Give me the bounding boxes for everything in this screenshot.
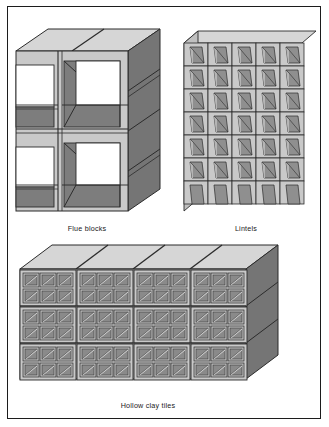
lintels-top-face [184,31,316,43]
panel-flue-blocks [8,21,170,221]
clay-tile-block [20,270,76,306]
lintel-unit [184,112,208,135]
lintel-unit [280,181,304,204]
caption-flue-blocks: Flue blocks [32,224,142,233]
lintel-unit [232,43,256,66]
lintel-unit [208,181,232,204]
lintel-unit [184,43,208,66]
lintel-unit [232,89,256,112]
lintel-unit [232,135,256,158]
caption-hollow-clay-tiles: Hollow clay tiles [68,401,228,410]
lintel-unit [232,112,256,135]
clay-tile-block [191,270,247,306]
clay-tile-block [20,344,76,380]
clay-tile-block [134,307,190,343]
lintel-unit [280,43,304,66]
flue-block-unit [16,65,54,127]
lintel-unit [256,89,280,112]
clay-tile-block [77,270,133,306]
lintel-unit [256,158,280,181]
lintel-unit [208,135,232,158]
lintel-unit [184,89,208,112]
lintel-unit [232,158,256,181]
panel-hollow-clay-tiles [12,239,318,399]
flue-block-unit [64,61,120,127]
lintel-unit [208,66,232,89]
lintel-unit [184,181,208,204]
lintel-unit [232,66,256,89]
clay-tile-block [191,307,247,343]
caption-lintels: Lintels [198,224,294,233]
lintel-unit [232,181,256,204]
lintel-unit [256,66,280,89]
clay-tile-block [134,270,190,306]
flue-blocks-illustration [8,21,170,221]
lintels-grid [184,43,304,204]
lintel-unit [184,66,208,89]
lintel-unit [280,158,304,181]
clay-tile-block [77,307,133,343]
lintel-unit [184,158,208,181]
hollow-clay-tiles-illustration [12,239,318,399]
lintel-unit [280,135,304,158]
lintel-unit [256,135,280,158]
figure-page: Flue blocks [0,0,329,427]
clay-tile-block [20,307,76,343]
figure-frame: Flue blocks [7,6,321,419]
flue-block-unit [16,147,54,207]
clay-tile-block [134,344,190,380]
clay-tile-block [77,344,133,380]
lintel-unit [256,112,280,135]
lintel-unit [208,158,232,181]
panel-lintels [176,21,316,221]
lintel-unit [280,89,304,112]
lintels-illustration [176,21,316,221]
lintel-unit [208,43,232,66]
tiles-right-face [246,245,278,379]
lintel-unit [256,181,280,204]
clay-tile-block [191,344,247,380]
lintel-unit [184,135,208,158]
lintel-unit [256,43,280,66]
flue-block-unit [64,143,120,207]
lintel-unit [208,89,232,112]
lintel-unit [208,112,232,135]
lintel-unit [280,66,304,89]
lintel-unit [280,112,304,135]
